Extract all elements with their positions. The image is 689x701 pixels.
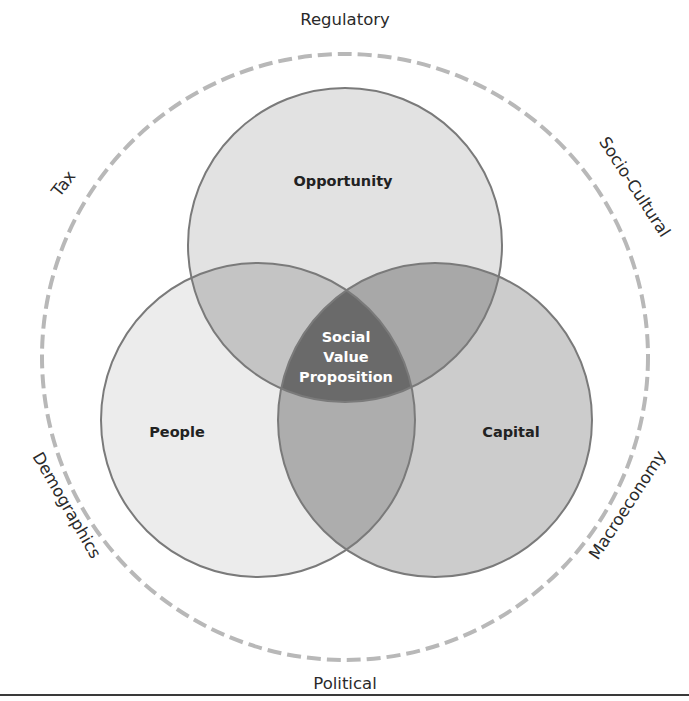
ring-label-tax: Tax <box>47 167 79 201</box>
center-label-line-3: Proposition <box>299 369 393 385</box>
opportunity-label: Opportunity <box>293 173 393 189</box>
venn-diagram: Opportunity People Capital Social Value … <box>0 0 689 701</box>
capital-label: Capital <box>482 424 539 440</box>
people-label: People <box>149 424 205 440</box>
center-label-line-1: Social <box>322 329 371 345</box>
ring-label-regulatory: Regulatory <box>300 10 390 29</box>
ring-label-demographics: Demographics <box>29 449 105 562</box>
ring-label-socio-cultural: Socio-Cultural <box>595 133 674 240</box>
center-label-line-2: Value <box>323 349 369 365</box>
bottom-rule <box>0 694 689 696</box>
ring-label-political: Political <box>313 674 376 693</box>
